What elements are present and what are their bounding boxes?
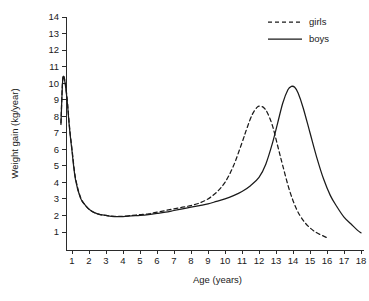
x-tick-label: 3: [103, 255, 108, 266]
x-tick-label: 12: [254, 255, 265, 266]
y-tick-label: 10: [48, 78, 59, 89]
x-tick-label: 7: [171, 255, 176, 266]
x-tick-label: 17: [339, 255, 350, 266]
y-axis-title: Weight gain (kg/year): [9, 88, 20, 178]
y-tick-label: 14: [48, 11, 59, 22]
x-tick-label: 4: [120, 255, 125, 266]
legend-label-girls: girls: [309, 16, 327, 27]
y-tick-label: 12: [48, 44, 59, 55]
y-tick-label: 7: [54, 127, 59, 138]
chart-canvas: 1234567891011121314 12345678910111213141…: [0, 0, 369, 301]
x-tick-label: 8: [188, 255, 193, 266]
growth-velocity-chart: 1234567891011121314 12345678910111213141…: [0, 0, 369, 301]
series-line-girls: [61, 75, 327, 238]
y-tick-label: 1: [54, 226, 59, 237]
series-line-boys: [61, 76, 361, 232]
chart-legend: girlsboys: [268, 16, 329, 44]
x-axis-ticks: 123456789101112131415161718: [69, 250, 366, 266]
x-tick-label: 9: [205, 255, 210, 266]
x-tick-label: 5: [137, 255, 142, 266]
x-axis-title: Age (years): [193, 274, 242, 285]
data-series-group: [61, 75, 361, 238]
legend-label-boys: boys: [309, 33, 329, 44]
x-tick-label: 13: [271, 255, 282, 266]
y-tick-label: 2: [54, 210, 59, 221]
x-tick-label: 11: [237, 255, 247, 266]
x-tick-label: 16: [322, 255, 333, 266]
x-tick-label: 1: [69, 255, 74, 266]
x-tick-label: 6: [154, 255, 159, 266]
x-tick-label: 2: [86, 255, 91, 266]
y-tick-label: 4: [54, 177, 59, 188]
y-tick-label: 11: [49, 61, 59, 72]
y-axis-ticks: 1234567891011121314: [48, 11, 66, 237]
x-tick-label: 18: [356, 255, 367, 266]
x-tick-label: 15: [305, 255, 316, 266]
y-tick-label: 6: [54, 144, 59, 155]
y-tick-label: 3: [54, 193, 59, 204]
y-tick-label: 13: [48, 28, 59, 39]
x-tick-label: 10: [220, 255, 231, 266]
y-tick-label: 5: [54, 160, 59, 171]
y-tick-label: 9: [54, 94, 59, 105]
y-tick-label: 8: [54, 111, 59, 122]
x-tick-label: 14: [288, 255, 299, 266]
